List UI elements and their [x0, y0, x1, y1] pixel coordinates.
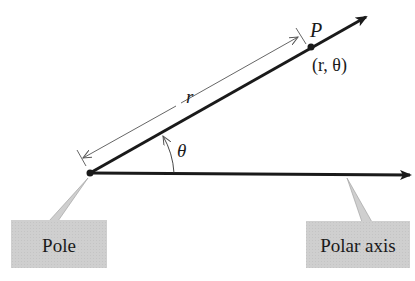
polar-diagram: P (r, θ) r θ Pole Polar axis: [0, 0, 415, 281]
coords-label: (r, θ): [312, 55, 347, 76]
point-P: [308, 44, 315, 51]
point-label: P: [309, 19, 322, 41]
angle-arc: [163, 136, 174, 173]
radius-label: r: [186, 86, 194, 107]
dim-arrow-up: [181, 37, 298, 103]
angle-label: θ: [177, 140, 186, 161]
pole-callout-pointer: [49, 178, 88, 221]
dim-tick-pole: [77, 150, 86, 166]
pole-label: Pole: [42, 235, 76, 256]
polar-axis-label: Polar axis: [320, 235, 395, 256]
dim-tick-point: [296, 28, 306, 44]
polar-axis-line: [90, 173, 410, 175]
radius-ray: [90, 17, 366, 173]
pole-point: [87, 170, 94, 177]
axis-callout-pointer: [347, 178, 372, 222]
